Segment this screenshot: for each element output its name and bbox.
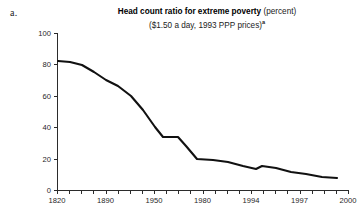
x-axis: 1820189019501980199419972000 <box>49 190 357 205</box>
x-tick-label: 1890 <box>97 196 114 205</box>
x-tick-label: 1820 <box>49 196 66 205</box>
y-tick-label: 0 <box>47 186 51 195</box>
x-tick-label-group: 1820189019501980199419972000 <box>49 196 357 205</box>
y-tick-label: 80 <box>43 60 51 69</box>
y-tick-label: 100 <box>38 29 51 38</box>
y-tick-label: 60 <box>43 92 51 101</box>
poverty-headcount-series-line <box>58 61 337 178</box>
x-tick-label: 1994 <box>243 196 260 205</box>
y-tick-label: 20 <box>43 155 51 164</box>
y-tick-group <box>54 34 58 191</box>
x-tick-label: 1997 <box>291 196 308 205</box>
x-tick-label: 2000 <box>340 196 357 205</box>
y-tick-label-group: 020406080100 <box>38 29 51 195</box>
y-axis: 020406080100 <box>38 29 57 195</box>
x-tick-label: 1950 <box>146 196 163 205</box>
y-tick-label: 40 <box>43 123 51 132</box>
line-chart: 020406080100 182018901950198019941997200… <box>0 0 363 219</box>
figure-panel: a. Head count ratio for extreme poverty … <box>0 0 363 219</box>
x-tick-label: 1980 <box>194 196 211 205</box>
